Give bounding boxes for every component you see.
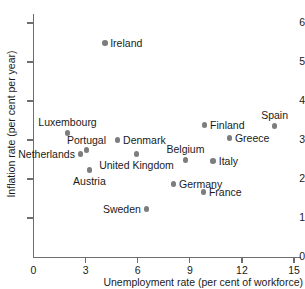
data-point-label: Austria — [73, 176, 106, 187]
x-tick-label: 12 — [230, 265, 254, 276]
data-point-marker[interactable] — [134, 151, 140, 157]
data-point-label: Denmark — [123, 135, 166, 146]
x-tick-label: 3 — [74, 265, 98, 276]
data-point-marker[interactable] — [115, 137, 121, 143]
y-tick-label: 3 — [281, 134, 305, 145]
y-tick-label: 1 — [281, 212, 305, 223]
data-point-marker[interactable] — [171, 181, 177, 187]
data-point-marker[interactable] — [272, 123, 278, 129]
data-point-label: Luxembourg — [38, 117, 96, 128]
data-point-label: Finland — [210, 120, 244, 131]
data-point-marker[interactable] — [84, 147, 90, 153]
y-axis-line — [33, 14, 34, 258]
x-tick-label: 6 — [126, 265, 150, 276]
data-point-marker[interactable] — [202, 122, 208, 128]
y-tick-label: 5 — [281, 56, 305, 67]
x-axis-line — [33, 257, 301, 258]
data-point-label: Greece — [235, 133, 269, 144]
y-tick-mark — [27, 61, 34, 62]
y-tick-label: 2 — [281, 173, 305, 184]
x-tick-label: 0 — [22, 265, 46, 276]
data-point-label: Spain — [261, 110, 288, 121]
data-point-marker[interactable] — [201, 189, 207, 195]
x-axis-title: Unemployment rate (per cent of workforce… — [0, 276, 303, 288]
data-point-label: Netherlands — [18, 149, 75, 160]
x-tick-label: 9 — [178, 265, 202, 276]
data-point-label: Ireland — [110, 38, 142, 49]
x-tick-mark — [189, 257, 190, 263]
data-point-label: Belgium — [167, 144, 205, 155]
data-point-marker[interactable] — [78, 151, 84, 157]
data-point-marker[interactable] — [144, 206, 150, 212]
data-point-label: France — [209, 187, 242, 198]
x-tick-label: 15 — [282, 265, 305, 276]
x-tick-mark — [293, 257, 294, 263]
data-point-label: Sweden — [103, 204, 141, 215]
data-point-marker[interactable] — [102, 40, 108, 46]
y-tick-mark — [27, 217, 34, 218]
data-point-label: United Kingdom — [99, 160, 174, 171]
y-tick-label: 6 — [281, 17, 305, 28]
y-tick-label: 4 — [281, 95, 305, 106]
data-point-marker[interactable] — [210, 158, 216, 164]
x-tick-mark — [241, 257, 242, 263]
x-tick-mark — [137, 257, 138, 263]
data-point-label: Portugal — [67, 134, 106, 145]
data-point-marker[interactable] — [183, 157, 189, 163]
data-point-marker[interactable] — [227, 135, 233, 141]
data-point-marker[interactable] — [87, 167, 93, 173]
y-tick-mark — [27, 100, 34, 101]
y-tick-mark — [27, 178, 34, 179]
data-point-label: Italy — [219, 156, 238, 167]
scatter-chart: 0123456 03691215 IrelandSpainFinlandLuxe… — [0, 0, 305, 289]
y-axis-title: Inflation rate (per cent per year) — [5, 9, 17, 239]
x-tick-mark — [85, 257, 86, 263]
y-tick-mark — [27, 139, 34, 140]
y-tick-mark — [27, 22, 34, 23]
